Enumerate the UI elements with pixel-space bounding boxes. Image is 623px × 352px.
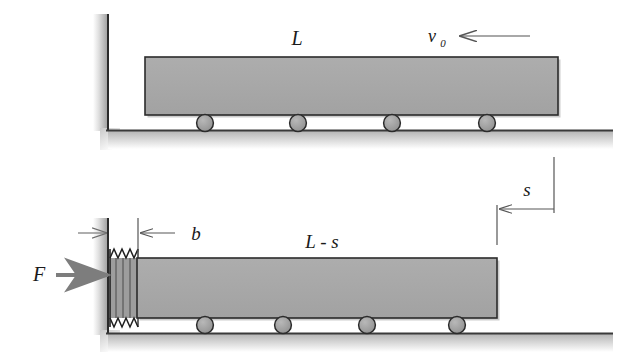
roller bbox=[479, 115, 496, 132]
velocity-label-group: v 0 bbox=[428, 26, 446, 49]
s-dimension: s bbox=[497, 157, 554, 245]
roller bbox=[359, 317, 376, 334]
velocity-symbol: v bbox=[428, 26, 436, 46]
mechanics-diagram-svg: L v 0 bbox=[0, 0, 623, 352]
length-label-L: L bbox=[290, 27, 302, 49]
upper-panel: L v 0 bbox=[93, 14, 613, 150]
spring bbox=[110, 249, 138, 327]
spring-coil-bottom bbox=[110, 318, 138, 327]
lower-bar bbox=[137, 258, 500, 321]
length-label-L-minus-s: L - s bbox=[304, 231, 338, 252]
roller bbox=[449, 317, 466, 334]
b-dimension: b bbox=[138, 218, 201, 252]
figure-canvas: L v 0 bbox=[0, 0, 623, 352]
force-label-F: F bbox=[32, 263, 46, 285]
upper-ground bbox=[106, 131, 613, 150]
roller bbox=[384, 115, 401, 132]
spring-deformation-label-b: b bbox=[191, 223, 201, 244]
roller bbox=[275, 317, 292, 334]
velocity-subscript: 0 bbox=[440, 37, 446, 49]
roller bbox=[290, 115, 307, 132]
displacement-label-s: s bbox=[523, 179, 530, 200]
roller bbox=[197, 317, 214, 334]
roller bbox=[197, 115, 214, 132]
lower-panel: F b L - s s bbox=[32, 157, 613, 352]
spring-coil-top bbox=[110, 249, 138, 258]
lower-ground bbox=[106, 334, 613, 352]
upper-bar bbox=[145, 57, 561, 118]
